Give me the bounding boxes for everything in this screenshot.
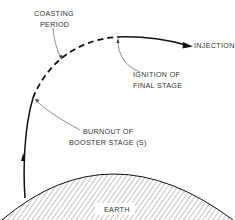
ignition-label-line2: FINAL STAGE	[133, 81, 182, 90]
coasting-label-line1: COASTING	[34, 9, 74, 18]
injection-label: INJECTION	[194, 41, 235, 50]
ignition-leader-line	[118, 40, 140, 72]
burnout-leader-line	[36, 100, 80, 130]
burnout-leader-arrow-icon	[35, 99, 40, 103]
earth-label: EARTH	[104, 205, 130, 214]
coasting-leader-line	[53, 28, 61, 58]
coasting-path	[33, 37, 117, 98]
coasting-label-line2: PERIOD	[40, 20, 69, 29]
burnout-label-line2: BOOSTER STAGE (S)	[69, 138, 147, 147]
powered-ascent-path	[24, 98, 33, 198]
trajectory-diagram: COASTING PERIOD INJECTION IGNITION OF FI…	[0, 0, 235, 220]
ignition-leader-arrow-icon	[116, 38, 119, 43]
burnout-label-line1: BURNOUT OF	[83, 127, 134, 136]
final-stage-path	[117, 37, 186, 45]
injection-arrow-icon	[183, 42, 194, 49]
ignition-label-line1: IGNITION OF	[133, 70, 181, 79]
coasting-leader-arrow-icon	[59, 55, 62, 60]
